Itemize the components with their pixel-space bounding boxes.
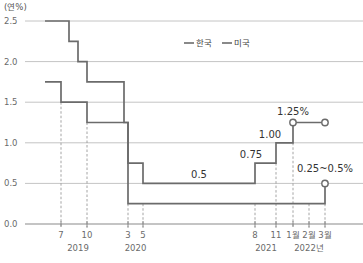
x-year-label: 2019 bbox=[67, 243, 89, 253]
y-tick-label: 1.0 bbox=[4, 138, 18, 148]
x-year-label: 2021 bbox=[255, 243, 277, 253]
x-guide-lines bbox=[61, 102, 325, 228]
series-marker bbox=[322, 119, 328, 125]
y-tick-label: 1.5 bbox=[4, 97, 18, 107]
x-tick-label: 3월 bbox=[318, 230, 331, 240]
data-label: 1.00 bbox=[259, 129, 281, 140]
y-axis-ticks: 0.00.51.01.52.02.5 bbox=[4, 16, 18, 229]
y-tick-label: 2.0 bbox=[4, 57, 18, 67]
data-label: 0.5 bbox=[191, 169, 207, 180]
x-tick-label: 1월 bbox=[286, 230, 299, 240]
y-tick-label: 0.5 bbox=[4, 178, 18, 188]
x-tick-label: 3 bbox=[125, 230, 130, 240]
y-tick-label: 2.5 bbox=[4, 16, 18, 26]
rate-chart: 0.00.51.01.52.02.5 (연%) 710358111월2월3월 2… bbox=[0, 0, 363, 263]
y-axis-label: (연%) bbox=[4, 2, 27, 12]
x-year-label: 2022년 bbox=[294, 243, 324, 253]
x-axis-year-labels: 2019202020212022년 bbox=[67, 243, 324, 253]
x-year-label: 2020 bbox=[125, 243, 147, 253]
legend-label-korea: 한국 bbox=[196, 38, 212, 48]
x-tick-label: 7 bbox=[58, 230, 63, 240]
x-tick-label: 5 bbox=[140, 230, 145, 240]
x-tick-label: 11 bbox=[271, 230, 282, 240]
data-label: 0.25~0.5% bbox=[297, 163, 353, 174]
y-tick-label: 0.0 bbox=[4, 219, 18, 229]
data-label: 0.75 bbox=[240, 149, 262, 160]
x-tick-label: 8 bbox=[252, 230, 257, 240]
series-marker bbox=[322, 180, 328, 186]
legend-label-us: 미국 bbox=[234, 38, 250, 48]
data-label: 1.25% bbox=[277, 106, 309, 117]
x-tick-label: 10 bbox=[82, 230, 93, 240]
series-marker bbox=[290, 119, 296, 125]
x-tick-label: 2월 bbox=[302, 230, 315, 240]
legend: 한국 미국 bbox=[184, 38, 250, 48]
